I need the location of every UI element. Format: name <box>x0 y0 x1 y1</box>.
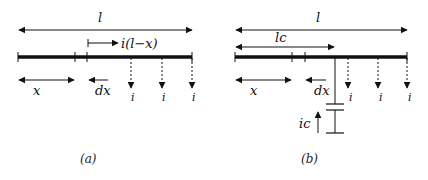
x-label: x <box>250 83 258 98</box>
caption-b: (b) <box>301 152 318 166</box>
caption-a: (a) <box>80 152 97 166</box>
dx-label: dx <box>314 83 330 98</box>
tap-label: i <box>192 91 196 104</box>
length-label: l <box>98 10 102 25</box>
length-label: l <box>316 10 320 25</box>
transmission-line-diagram: l i(l−x) x dx i i i (a) l lc <box>0 0 428 180</box>
tap-label: i <box>131 91 135 104</box>
tap-label: i <box>162 91 166 104</box>
dx-label: dx <box>95 83 111 98</box>
tap-label: i <box>408 91 412 104</box>
panel-b: l lc x dx ic i i i (b) <box>235 10 412 166</box>
x-label: x <box>33 83 41 98</box>
tap-label: i <box>349 91 353 104</box>
tap-label: i <box>379 91 383 104</box>
ic-label: ic <box>299 116 311 131</box>
current-label: i(l−x) <box>121 36 158 51</box>
panel-a: l i(l−x) x dx i i i (a) <box>18 10 196 166</box>
lc-label: lc <box>275 30 287 45</box>
